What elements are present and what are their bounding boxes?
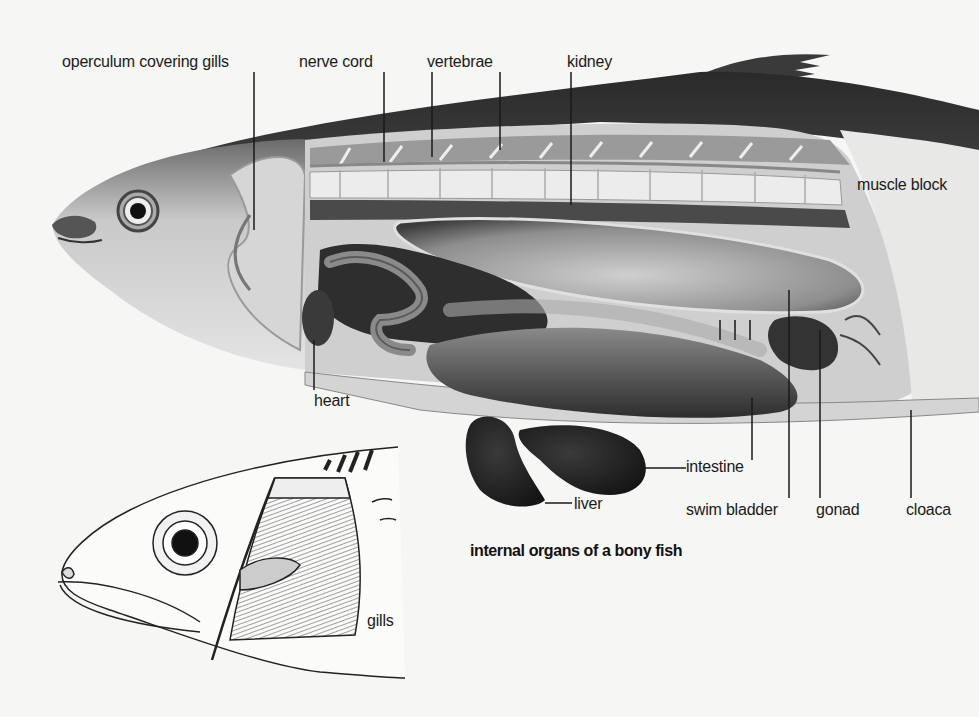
label-cloaca: cloaca bbox=[906, 502, 951, 518]
diagram-caption: internal organs of a bony fish bbox=[470, 542, 682, 560]
label-nerve-cord: nerve cord bbox=[299, 54, 373, 70]
label-kidney: kidney bbox=[567, 54, 612, 70]
label-heart: heart bbox=[314, 393, 349, 409]
inset-head-drawing bbox=[58, 447, 405, 678]
label-operculum: operculum covering gills bbox=[62, 54, 229, 70]
label-gonad: gonad bbox=[816, 502, 860, 518]
label-intestine: intestine bbox=[686, 459, 744, 475]
label-muscle-block: muscle block bbox=[857, 177, 947, 193]
label-swim-bladder: swim bladder bbox=[686, 502, 778, 518]
fish-illustration bbox=[0, 0, 979, 717]
label-vertebrae: vertebrae bbox=[427, 54, 493, 70]
label-gills: gills bbox=[367, 613, 394, 629]
main-fish bbox=[52, 54, 979, 506]
label-liver: liver bbox=[574, 496, 602, 512]
